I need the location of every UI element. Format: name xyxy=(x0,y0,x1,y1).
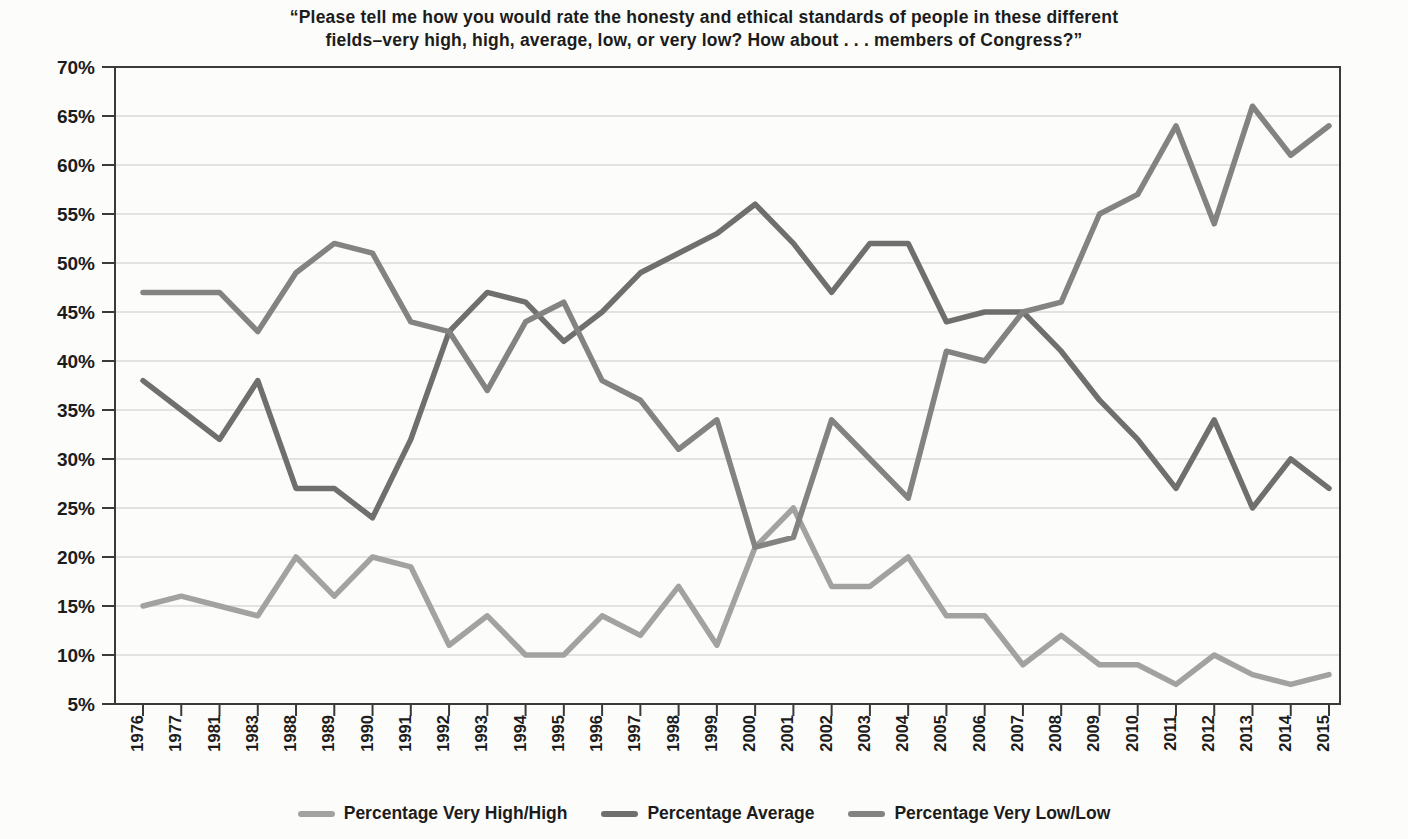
legend-item-very-high: Percentage Very High/High xyxy=(298,803,568,824)
x-tick-label-2000: 2000 xyxy=(740,715,758,752)
series-line-0 xyxy=(143,508,1329,684)
x-tick-label-1983: 1983 xyxy=(243,715,261,752)
y-tick-label-40: 40% xyxy=(57,351,95,372)
x-tick-label-2001: 2001 xyxy=(778,715,796,752)
x-tick-label-1995: 1995 xyxy=(549,715,567,752)
y-tick-label-35: 35% xyxy=(57,400,95,421)
figure-page: “Please tell me how you would rate the h… xyxy=(0,0,1408,839)
x-tick-label-2007: 2007 xyxy=(1008,715,1026,752)
series-line-2 xyxy=(143,106,1329,547)
x-tick-label-1992: 1992 xyxy=(434,715,452,752)
legend-label-average: Percentage Average xyxy=(647,803,814,824)
legend-item-very-low: Percentage Very Low/Low xyxy=(848,803,1110,824)
legend-item-average: Percentage Average xyxy=(601,803,814,824)
x-tick-label-2012: 2012 xyxy=(1199,715,1217,752)
x-tick-label-2015: 2015 xyxy=(1314,715,1332,752)
legend-swatch-very-low xyxy=(848,811,885,817)
x-tick-label-2006: 2006 xyxy=(970,715,988,752)
x-tick-label-2005: 2005 xyxy=(931,715,949,752)
x-tick-label-1996: 1996 xyxy=(587,715,605,752)
x-tick-label-1993: 1993 xyxy=(472,715,490,752)
x-tick-label-1977: 1977 xyxy=(166,715,184,752)
x-tick-label-1990: 1990 xyxy=(358,715,376,752)
x-tick-label-1994: 1994 xyxy=(511,714,529,752)
x-tick-label-1997: 1997 xyxy=(625,715,643,752)
legend-swatch-very-high xyxy=(298,811,335,817)
x-tick-label-1999: 1999 xyxy=(702,715,720,752)
legend-label-very-low: Percentage Very Low/Low xyxy=(894,803,1110,824)
y-tick-label-55: 55% xyxy=(57,204,95,225)
y-tick-label-60: 60% xyxy=(57,155,95,176)
x-tick-label-2013: 2013 xyxy=(1237,715,1255,752)
y-tick-label-5: 5% xyxy=(68,694,96,715)
x-tick-label-1988: 1988 xyxy=(281,715,299,752)
legend-label-very-high: Percentage Very High/High xyxy=(344,803,568,824)
y-tick-label-65: 65% xyxy=(57,106,95,127)
x-tick-label-2014: 2014 xyxy=(1276,714,1294,752)
y-tick-label-20: 20% xyxy=(57,547,95,568)
y-tick-label-50: 50% xyxy=(57,253,95,274)
x-tick-label-1976: 1976 xyxy=(128,715,146,752)
x-tick-label-2003: 2003 xyxy=(855,715,873,752)
y-tick-label-70: 70% xyxy=(57,57,95,78)
line-chart: 5%10%15%20%25%30%35%40%45%50%55%60%65%70… xyxy=(0,0,1408,800)
x-tick-label-1991: 1991 xyxy=(396,715,414,752)
x-tick-label-1981: 1981 xyxy=(205,715,223,752)
x-tick-label-2002: 2002 xyxy=(817,715,835,752)
x-tick-label-2009: 2009 xyxy=(1084,715,1102,752)
legend-swatch-average xyxy=(601,811,638,817)
x-tick-label-2004: 2004 xyxy=(893,714,911,752)
x-tick-label-2008: 2008 xyxy=(1046,715,1064,752)
y-tick-label-25: 25% xyxy=(57,498,95,519)
x-tick-label-1998: 1998 xyxy=(664,715,682,752)
x-tick-label-2011: 2011 xyxy=(1161,715,1179,751)
x-tick-label-1989: 1989 xyxy=(319,715,337,752)
chart-legend: Percentage Very High/High Percentage Ave… xyxy=(0,803,1408,824)
y-tick-label-30: 30% xyxy=(57,449,95,470)
x-tick-label-2010: 2010 xyxy=(1123,715,1141,752)
y-tick-label-45: 45% xyxy=(57,302,95,323)
y-tick-label-15: 15% xyxy=(57,596,95,617)
y-tick-label-10: 10% xyxy=(57,645,95,666)
